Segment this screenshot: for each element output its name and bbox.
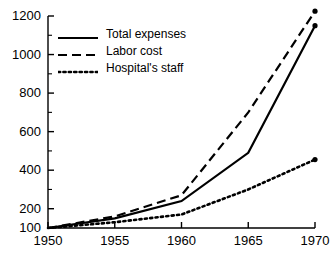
x-tick-label-1950: 1950 bbox=[23, 234, 73, 247]
y-tick-label-200: 200 bbox=[19, 202, 41, 215]
series-endpoint-marker-1 bbox=[312, 23, 317, 28]
y-tick-label-400: 400 bbox=[19, 163, 41, 176]
y-tick-label-1000: 1000 bbox=[12, 48, 41, 61]
y-tick-label-1200: 1200 bbox=[12, 9, 41, 22]
chart-legend: Total expensesLabor costHospital's staff bbox=[58, 25, 186, 76]
legend-item-3: Hospital's staff bbox=[58, 59, 186, 76]
legend-label-1: Total expenses bbox=[106, 28, 186, 40]
series-endpoint-marker-3 bbox=[312, 157, 317, 162]
series-line-3 bbox=[48, 160, 315, 228]
legend-item-1: Total expenses bbox=[58, 25, 186, 42]
series-endpoint-marker-2 bbox=[312, 9, 317, 14]
y-tick-label-600: 600 bbox=[19, 125, 41, 138]
x-tick-label-1970: 1970 bbox=[290, 234, 336, 247]
legend-label-2: Labor cost bbox=[106, 45, 162, 57]
y-tick-label-800: 800 bbox=[19, 86, 41, 99]
dotted-line-sample bbox=[58, 63, 98, 73]
dashed-line-sample bbox=[58, 46, 98, 56]
line-chart: 10020040060080010001200 1950195519601965… bbox=[0, 0, 336, 263]
x-tick-label-1955: 1955 bbox=[90, 234, 140, 247]
legend-label-3: Hospital's staff bbox=[106, 62, 183, 74]
solid-line-sample bbox=[58, 29, 98, 39]
x-tick-label-1960: 1960 bbox=[157, 234, 207, 247]
x-tick-label-1965: 1965 bbox=[223, 234, 273, 247]
legend-item-2: Labor cost bbox=[58, 42, 186, 59]
